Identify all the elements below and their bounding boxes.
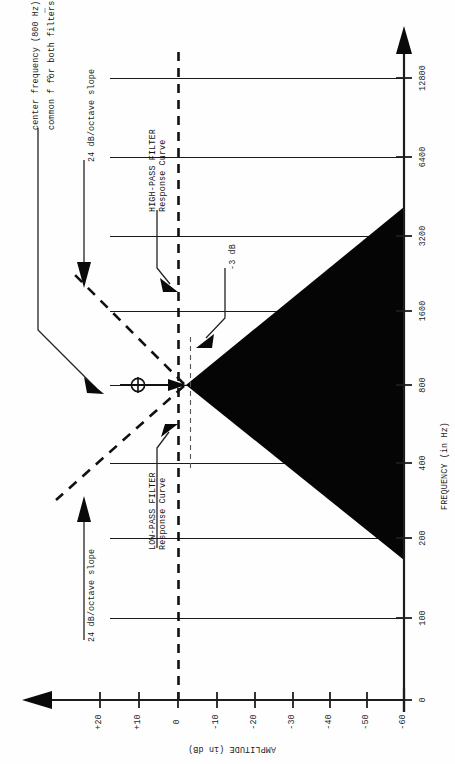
low-pass-annotation: LOW-PASS FILTER Response Curve <box>148 472 168 550</box>
low-pass-line1: LOW-PASS FILTER <box>148 472 158 550</box>
slope-annotation-bottom: 24 dB/octave slope <box>88 549 97 642</box>
high-pass-annotation: HIGH-PASS FILTER Response Curve <box>148 129 168 212</box>
center-frequency-line2: common f for both filters <box>47 1 57 130</box>
high-pass-line1: HIGH-PASS FILTER <box>148 129 158 212</box>
high-pass-line2: Response Curve <box>158 129 168 212</box>
filter-response-figure: 12800 6400 3200 1600 800 400 200 100 0 F… <box>0 0 455 764</box>
low-pass-line2: Response Curve <box>158 472 168 550</box>
center-frequency-subscript: c <box>46 75 53 79</box>
center-frequency-line1: center frequency (800 Hz) <box>32 1 41 130</box>
annotation-leaders <box>0 0 455 764</box>
center-frequency-annotation: center frequency (800 Hz) common f for b… <box>32 1 59 130</box>
minus-3db-annotation: -3 dB <box>229 244 238 270</box>
slope-annotation-top: 24 dB/octave slope <box>88 69 97 162</box>
